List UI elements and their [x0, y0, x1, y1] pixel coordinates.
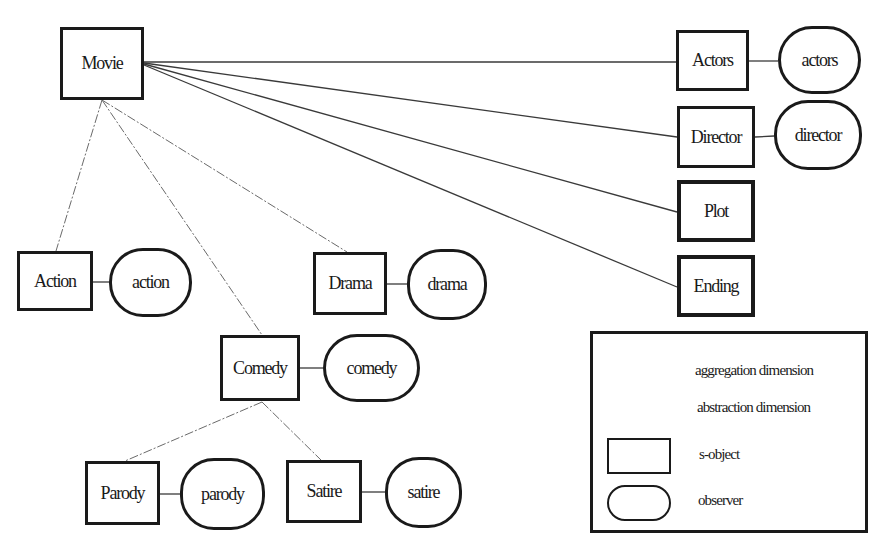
edge-comedy-satire	[262, 402, 322, 461]
node-ending: Ending	[677, 255, 755, 317]
observer-drama: drama	[407, 249, 487, 320]
legend-s-object-swatch	[607, 438, 671, 474]
observer-director: director	[774, 100, 862, 170]
edge-movie-action	[56, 100, 102, 251]
edge-movie-plot	[144, 64, 677, 212]
legend-label-s-object: s-object	[699, 446, 739, 463]
legend-label-abstraction: abstraction dimension	[697, 399, 810, 416]
node-satire: Satire	[286, 460, 362, 523]
node-parody: Parody	[85, 461, 160, 525]
aggregation-edges	[144, 62, 677, 287]
observer-satire: satire	[385, 457, 462, 528]
node-plot: Plot	[677, 180, 755, 242]
node-actors: Actors	[676, 30, 749, 91]
edge-comedy-parody	[125, 402, 262, 461]
link-director	[755, 136, 774, 137]
legend-observer-swatch	[607, 485, 671, 521]
edge-movie-director	[144, 63, 677, 137]
legend-label-aggregation: aggregation dimension	[695, 362, 813, 379]
observer-action: action	[109, 248, 192, 317]
edge-movie-drama	[102, 100, 347, 252]
node-movie: Movie	[60, 27, 144, 100]
legend-label-observer: observer	[698, 492, 742, 509]
node-drama: Drama	[313, 252, 387, 315]
observer-parody: parody	[180, 458, 265, 530]
abstraction-edges	[56, 100, 347, 461]
node-action: Action	[17, 251, 93, 311]
observer-actors: actors	[778, 26, 861, 94]
observer-comedy: comedy	[323, 334, 420, 402]
node-director: Director	[677, 106, 755, 168]
node-comedy: Comedy	[220, 335, 300, 401]
